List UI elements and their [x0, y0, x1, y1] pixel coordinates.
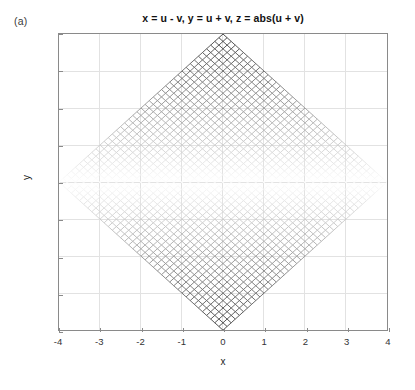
x-tick-label: -3 [95, 336, 103, 347]
x-tick-mark [100, 328, 101, 332]
y-tick-mark [59, 220, 63, 221]
y-tick-mark [59, 109, 63, 110]
x-tick-label: 1 [262, 336, 267, 347]
x-tick-label: -2 [136, 336, 144, 347]
figure-container: (a) x = u - v, y = u + v, z = abs(u + v)… [0, 0, 415, 390]
x-tick-label: -1 [178, 336, 186, 347]
x-tick-label: 0 [220, 336, 225, 347]
chart-title: x = u - v, y = u + v, z = abs(u + v) [58, 12, 388, 24]
x-axis-title: x [58, 356, 388, 367]
plot-area [58, 33, 388, 331]
x-tick-label: -4 [54, 336, 62, 347]
x-tick-mark [389, 328, 390, 332]
y-tick-mark [59, 183, 63, 184]
x-tick-label: 3 [344, 336, 349, 347]
x-tick-mark [183, 328, 184, 332]
y-tick-mark [59, 146, 63, 147]
y-axis-title: y [21, 148, 32, 208]
y-tick-mark [59, 332, 63, 333]
y-tick-mark [59, 258, 63, 259]
y-tick-mark [59, 34, 63, 35]
x-tick-mark [142, 328, 143, 332]
x-tick-mark [348, 328, 349, 332]
plot-inner [59, 34, 387, 330]
x-tick-mark [265, 328, 266, 332]
y-tick-mark [59, 295, 63, 296]
x-tick-mark [307, 328, 308, 332]
x-tick-label: 2 [303, 336, 308, 347]
y-tick-mark [59, 71, 63, 72]
x-tick-mark [224, 328, 225, 332]
mesh-wireframe [59, 34, 387, 330]
x-tick-label: 4 [385, 336, 390, 347]
